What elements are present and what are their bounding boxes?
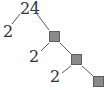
branch-root-to-left1 <box>12 14 20 24</box>
branch-box1-to-box2 <box>60 43 71 54</box>
blank-box-level3[interactable] <box>93 76 104 87</box>
factor-left-level1: 2 <box>3 24 13 40</box>
factor-left-level2: 2 <box>29 49 39 65</box>
factor-left-level3: 2 <box>50 69 60 85</box>
branch-box1-to-left2 <box>41 43 49 51</box>
branch-box2-to-box3 <box>82 66 93 76</box>
blank-box-level2[interactable] <box>71 54 82 65</box>
blank-box-level1[interactable] <box>49 31 60 42</box>
root-number: 24 <box>20 1 39 17</box>
branch-box2-to-left3 <box>62 66 71 73</box>
factor-tree-diagram: 24 2 2 2 <box>0 0 107 90</box>
